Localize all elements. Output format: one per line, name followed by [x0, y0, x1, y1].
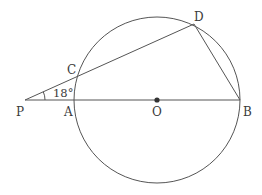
secant-pd [25, 24, 194, 100]
geometry-diagram: P A O B C D 18° [0, 0, 262, 195]
label-a: A [63, 105, 73, 119]
label-c: C [67, 63, 76, 77]
chord-db [194, 24, 240, 100]
center-dot-o [154, 97, 159, 102]
label-b: B [243, 105, 252, 119]
angle-arc-p [43, 92, 45, 100]
angle-label-18: 18° [53, 86, 73, 100]
label-o: O [152, 105, 162, 119]
label-d: D [194, 10, 204, 24]
label-p: P [16, 105, 24, 119]
